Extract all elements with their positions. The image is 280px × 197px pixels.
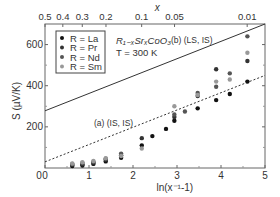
y-zero-label: 0: [36, 170, 42, 181]
x-tick-label: 5: [262, 170, 268, 181]
legend-marker: [60, 65, 64, 69]
legend-marker: [60, 46, 64, 50]
data-point: [228, 71, 232, 75]
data-point: [228, 92, 232, 96]
top-tick-label: 0.3: [76, 11, 89, 22]
data-point: [245, 51, 249, 55]
data-point: [245, 79, 249, 83]
data-point: [245, 34, 249, 38]
data-point: [214, 85, 218, 89]
top-tick-label: 0.2: [99, 11, 112, 22]
top-tick-label: 0.05: [165, 11, 184, 22]
data-point: [183, 109, 187, 113]
annotations: R₁₋ₓSrₓCoO₃T = 300 K(b) (LS, IS)(a) (IS,…: [94, 35, 213, 128]
data-point: [119, 154, 123, 158]
data-point: [228, 77, 232, 81]
data-point: [195, 106, 199, 110]
data-point: [214, 67, 218, 71]
top-tick-label: 0.01: [238, 11, 257, 22]
temperature-label: T = 300 K: [116, 47, 158, 58]
line-b-label: (b) (LS, IS): [171, 35, 213, 45]
y-axis-label: S (µV/K): [11, 82, 22, 120]
x-tick-label: 3: [174, 170, 180, 181]
data-point: [140, 136, 144, 140]
y-tick-label: 600: [26, 39, 43, 50]
top-tick-label: 0.1: [135, 11, 148, 22]
data-point: [214, 98, 218, 102]
data-point: [70, 161, 74, 165]
data-point: [80, 160, 84, 164]
x-tick-label: 1: [86, 170, 92, 181]
legend-label: R = Sm: [70, 61, 102, 72]
y-tick-label: 200: [26, 121, 43, 132]
data-point: [91, 159, 95, 163]
chart: 01234520040060000.50.40.30.20.10.050.01x…: [0, 0, 280, 197]
legend: R = LaR = PrR = NdR = Sm: [56, 31, 105, 73]
data-point: [150, 134, 154, 138]
plot-axes: 01234520040060000.50.40.30.20.10.050.01x…: [11, 2, 268, 193]
x-tick-label: 2: [130, 170, 136, 181]
data-point: [104, 156, 108, 160]
line-a-label: (a) (IS, IS): [94, 118, 133, 128]
data-point: [164, 127, 168, 131]
x-tick-label: 0: [42, 170, 48, 181]
data-point: [214, 79, 218, 83]
y-tick-label: 400: [26, 80, 43, 91]
data-point: [172, 104, 176, 108]
top-axis-label: x: [154, 2, 161, 13]
top-tick-label: 0.4: [56, 11, 69, 22]
formula-label: R₁₋ₓSrₓCoO₃: [116, 35, 171, 46]
x-axis-label: ln(x⁻¹-1): [156, 182, 193, 193]
x-tick-label: 4: [218, 170, 224, 181]
data-point: [172, 112, 176, 116]
data-point: [140, 146, 144, 150]
fit-line-a: [45, 75, 265, 161]
data-point: [195, 93, 199, 97]
top-tick-label: 0.5: [38, 11, 51, 22]
legend-marker: [60, 55, 64, 59]
data-point: [245, 59, 249, 63]
legend-marker: [60, 36, 64, 40]
